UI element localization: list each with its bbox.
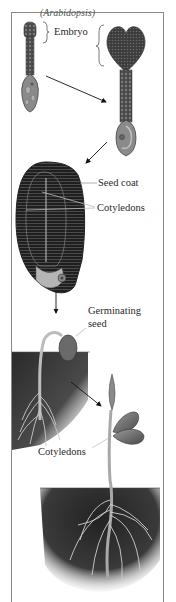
seed-coat-label: Seed coat [98, 178, 139, 189]
germinating-leader [76, 328, 86, 336]
germinating-label-line2: seed [88, 319, 107, 330]
mature-seed-drawing [16, 162, 85, 293]
cotyledons-seedling-label: Cotyledons [38, 447, 86, 458]
early-embryo-drawing [22, 22, 39, 112]
germinating-seed-drawing [12, 333, 90, 450]
germinating-label-line1: Germinating [88, 306, 141, 317]
embryo-label: Embryo [54, 27, 88, 38]
cotyledons-seed-label: Cotyledons [97, 203, 145, 214]
embryo-bracket-right [96, 25, 104, 66]
heart-stage-embryo-drawing [107, 27, 145, 156]
arrow-2 [86, 142, 107, 163]
arrow-1 [46, 76, 106, 102]
embryo-bracket-left [43, 22, 49, 43]
